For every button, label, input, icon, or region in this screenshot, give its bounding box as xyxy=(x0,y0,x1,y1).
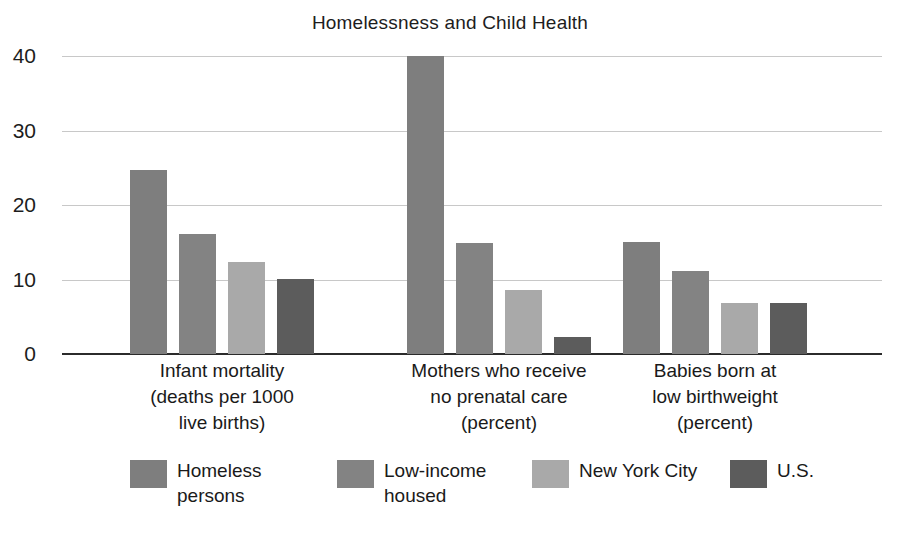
chart-legend: Homeless personsLow-income housedNew Yor… xyxy=(62,458,882,520)
bar xyxy=(505,290,542,354)
legend-swatch xyxy=(730,460,767,488)
bar xyxy=(456,243,493,354)
bar xyxy=(672,271,709,354)
legend-item[interactable]: U.S. xyxy=(730,458,814,488)
legend-label: New York City xyxy=(579,458,697,483)
gridline xyxy=(62,56,882,57)
legend-swatch xyxy=(337,460,374,488)
gridline xyxy=(62,131,882,132)
legend-item[interactable]: New York City xyxy=(532,458,697,488)
legend-item[interactable]: Homeless persons xyxy=(130,458,261,508)
legend-label: Homeless persons xyxy=(177,458,261,508)
bar xyxy=(407,56,444,354)
legend-swatch xyxy=(532,460,569,488)
legend-item[interactable]: Low-income housed xyxy=(337,458,486,508)
legend-label: Low-income housed xyxy=(384,458,486,508)
x-axis-category-label: Babies born at low birthweight (percent) xyxy=(565,358,865,436)
bar xyxy=(721,303,758,354)
chart-title: Homelessness and Child Health xyxy=(0,12,900,34)
y-axis-tick-label: 40 xyxy=(0,45,36,66)
y-axis-tick-label: 0 xyxy=(0,343,36,364)
bar xyxy=(770,303,807,354)
plot-area: 010203040 xyxy=(62,56,882,354)
bar xyxy=(623,242,660,354)
y-axis-tick-label: 20 xyxy=(0,194,36,215)
x-axis-category-labels: Infant mortality (deaths per 1000 live b… xyxy=(62,358,882,444)
legend-label: U.S. xyxy=(777,458,814,483)
y-axis-tick-label: 10 xyxy=(0,269,36,290)
bar xyxy=(277,279,314,354)
bar-chart: Homelessness and Child Health 010203040 … xyxy=(0,0,900,537)
bar xyxy=(228,262,265,354)
bar xyxy=(130,170,167,354)
y-axis-tick-label: 30 xyxy=(0,120,36,141)
x-axis-category-label: Infant mortality (deaths per 1000 live b… xyxy=(72,358,372,436)
bar xyxy=(179,234,216,354)
gridline xyxy=(62,205,882,206)
bar xyxy=(554,337,591,354)
legend-swatch xyxy=(130,460,167,488)
